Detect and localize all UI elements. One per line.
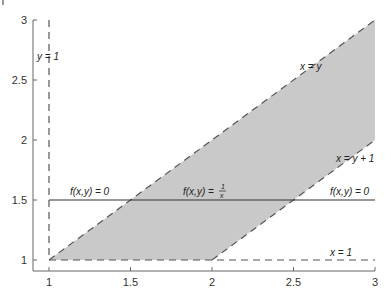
x-tick-label: 1.5 — [123, 276, 138, 288]
x-tick-label: 3 — [372, 276, 378, 288]
y-tick-label: 3 — [21, 14, 27, 26]
y-tick-label: 1 — [21, 254, 27, 266]
label-f-fraction-num: 1 — [221, 183, 225, 190]
label-f-one-over-x: f(x,y) = — [183, 186, 214, 197]
x-tick-label: 2 — [209, 276, 215, 288]
label-f-fraction-den: x — [219, 192, 224, 199]
x-tick-label: 2.5 — [286, 276, 301, 288]
label-x-eq-y-plus-1: x = y + 1 — [335, 153, 374, 164]
label-x-eq-1: x = 1 — [329, 247, 352, 258]
label-x-eq-y: x = y — [299, 61, 322, 72]
label-f-zero-right: f(x,y) = 0 — [330, 186, 370, 197]
label-y-eq-1: y = 1 — [36, 51, 59, 62]
y-tick-label: 1.5 — [12, 194, 27, 206]
y-tick-label: 2 — [21, 134, 27, 146]
chart: 3 2.5 2 1.5 1 1 1.5 2 2.5 3 y = 1 x = y … — [0, 0, 391, 299]
x-ticks — [49, 267, 375, 271]
x-tick-label: 1 — [46, 276, 52, 288]
label-f-zero-left: f(x,y) = 0 — [70, 186, 110, 197]
y-tick-label: 2.5 — [12, 74, 27, 86]
